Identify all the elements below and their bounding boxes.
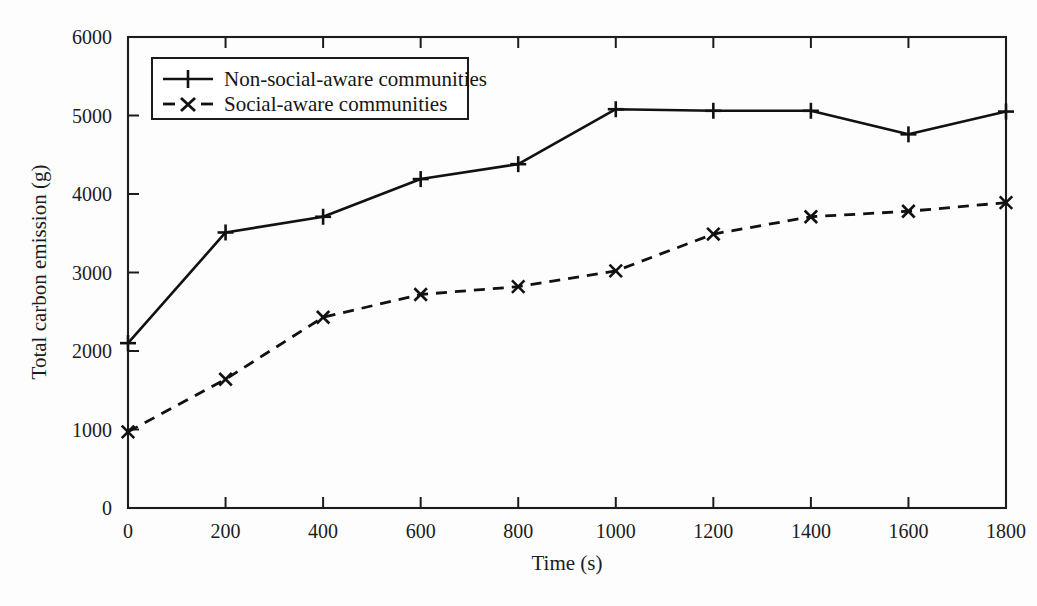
y-tick-label-0: 0 [102, 497, 112, 519]
data-point-800-4380 [510, 156, 526, 172]
data-point-1400-5060 [803, 103, 819, 119]
x-tick-label-800: 800 [503, 520, 533, 542]
data-point-200-1640 [219, 373, 231, 385]
chart-legend: Non-social-aware communities Social-awar… [152, 58, 487, 119]
x-tick-label-600: 600 [406, 520, 436, 542]
data-point-400-3710 [315, 209, 331, 225]
x-axis-title: Time (s) [532, 551, 603, 575]
y-tick-label-1000: 1000 [72, 419, 112, 441]
x-tick-label-1000: 1000 [596, 520, 636, 542]
data-point-1600-4760 [900, 126, 916, 142]
y-tick-label-2000: 2000 [72, 340, 112, 362]
x-tick-label-400: 400 [308, 520, 338, 542]
y-tick-label-6000: 6000 [72, 26, 112, 48]
x-tick-label-1400: 1400 [791, 520, 831, 542]
data-point-600-4190 [413, 171, 429, 187]
x-tick-label-0: 0 [123, 520, 133, 542]
y-tick-label-3000: 3000 [72, 262, 112, 284]
data-point-1000-5080 [608, 101, 624, 117]
line-chart: 0100020003000400050006000 02004006008001… [0, 0, 1037, 606]
series-line-social-aware [128, 203, 1006, 432]
series-markers-non-social-aware [120, 101, 1014, 351]
chart-figure: 0100020003000400050006000 02004006008001… [0, 0, 1037, 606]
data-point-1200-5060 [705, 103, 721, 119]
x-tick-label-200: 200 [211, 520, 241, 542]
x-tick-label-1800: 1800 [986, 520, 1026, 542]
series-line-non-social-aware [128, 109, 1006, 343]
x-tick-label-1600: 1600 [888, 520, 928, 542]
y-tick-label-5000: 5000 [72, 105, 112, 127]
x-tick-label-1200: 1200 [693, 520, 733, 542]
y-axis-title: Total carbon emission (g) [27, 165, 51, 380]
legend-label-social-aware: Social-aware communities [224, 92, 447, 116]
y-tick-label-4000: 4000 [72, 183, 112, 205]
legend-label-non-social-aware: Non-social-aware communities [224, 67, 487, 91]
data-point-1800-5050 [998, 104, 1014, 120]
series-markers-social-aware [122, 196, 1012, 438]
